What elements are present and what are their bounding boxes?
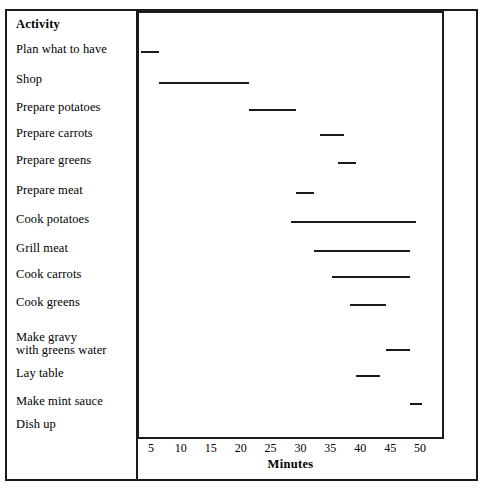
activity-label: Cook carrots (16, 268, 81, 281)
x-axis-tick-label: 45 (384, 441, 396, 456)
activity-column: Activity Plan what to haveShopPrepare po… (7, 11, 138, 479)
gantt-bar (141, 51, 159, 53)
gantt-bar (291, 221, 417, 223)
activity-label: Lay table (16, 367, 64, 380)
activity-column-header: Activity (16, 17, 60, 32)
x-axis-tick-label: 20 (235, 441, 247, 456)
x-axis-tick-label: 15 (205, 441, 217, 456)
gantt-bar (296, 192, 314, 194)
gantt-bar (159, 82, 249, 84)
activity-label: Prepare greens (16, 154, 91, 167)
gantt-bar (386, 349, 410, 351)
activity-label: Cook potatoes (16, 213, 89, 226)
activity-label: Plan what to have (16, 43, 107, 56)
x-axis-tick-label: 30 (294, 441, 306, 456)
gantt-bar (332, 276, 410, 278)
gantt-bar (249, 109, 297, 111)
gantt-bar (356, 375, 380, 377)
x-axis-tick-label: 5 (148, 441, 154, 456)
activity-label: Cook greens (16, 296, 80, 309)
activity-label: Make mint sauce (16, 395, 103, 408)
gantt-bar (338, 162, 356, 164)
gantt-bar (350, 304, 386, 306)
activity-label: Prepare meat (16, 184, 83, 197)
activity-label: Shop (16, 73, 42, 86)
activity-label: Prepare carrots (16, 127, 93, 140)
activity-label: Make gravy with greens water (16, 331, 107, 357)
activity-label: Grill meat (16, 242, 68, 255)
activity-label: Prepare potatoes (16, 101, 101, 114)
gantt-plot-area (137, 11, 444, 439)
x-axis-tick-label: 40 (354, 441, 366, 456)
gantt-bar (410, 403, 422, 405)
gantt-bar (320, 134, 344, 136)
x-axis-tick-label: 50 (414, 441, 426, 456)
x-axis-label: Minutes (137, 457, 444, 472)
x-axis-tick-label: 35 (324, 441, 336, 456)
gantt-bar (314, 250, 410, 252)
x-axis-tick-label: 25 (265, 441, 277, 456)
x-axis-tick-label: 10 (175, 441, 187, 456)
activity-label: Dish up (16, 418, 56, 431)
chart-frame: Activity Plan what to haveShopPrepare po… (5, 9, 478, 481)
